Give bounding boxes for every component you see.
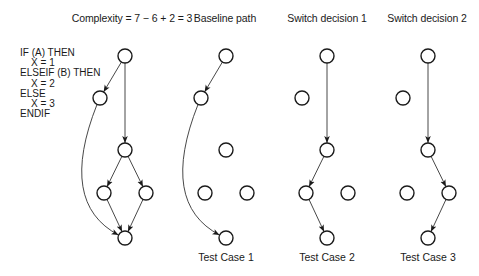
graph-node xyxy=(320,231,334,245)
graph-node xyxy=(139,186,153,200)
graph-node xyxy=(219,143,233,157)
graph-node xyxy=(320,49,334,63)
graph-node xyxy=(400,186,414,200)
edge-arrow xyxy=(431,199,446,231)
graph-node xyxy=(118,231,132,245)
edge-arrow xyxy=(82,105,119,236)
graph-node xyxy=(194,91,208,105)
graph-node xyxy=(442,186,456,200)
graph-node xyxy=(299,186,313,200)
graph-node xyxy=(421,231,435,245)
graph-node xyxy=(396,91,410,105)
baseline-path-graph xyxy=(183,49,254,245)
graph-node xyxy=(118,143,132,157)
edge-arrow xyxy=(104,62,122,92)
graph-node xyxy=(421,143,435,157)
graph-node xyxy=(341,186,355,200)
graph-node xyxy=(320,143,334,157)
switch-decision-1-graph xyxy=(295,49,355,245)
switch-decision-2-graph xyxy=(396,49,456,245)
graph-node xyxy=(198,186,212,200)
edge-arrow xyxy=(107,156,122,186)
edge-arrow xyxy=(309,156,324,186)
control-flow-graph xyxy=(82,49,153,245)
edge-arrow xyxy=(205,62,223,92)
graph-node xyxy=(97,186,111,200)
edge-arrow xyxy=(183,105,220,236)
edge-arrow xyxy=(128,156,143,186)
graph-node xyxy=(421,49,435,63)
edge-arrow xyxy=(128,199,143,231)
graph-node xyxy=(93,91,107,105)
edge-arrow xyxy=(431,156,446,186)
graph-node xyxy=(240,186,254,200)
edge-arrow xyxy=(107,199,122,231)
graph-node xyxy=(219,231,233,245)
flow-graphs xyxy=(0,0,479,276)
edge-arrow xyxy=(309,199,324,231)
graph-node xyxy=(219,49,233,63)
graph-node xyxy=(118,49,132,63)
graph-node xyxy=(295,91,309,105)
